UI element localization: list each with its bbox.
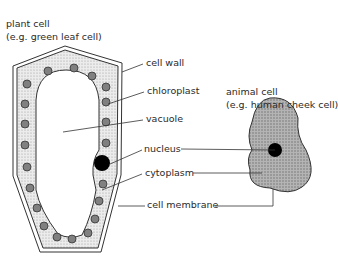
plant-cell-title: plant cell bbox=[6, 18, 50, 30]
plant-cell-example: (e.g. green leaf cell) bbox=[6, 31, 102, 43]
label-cytoplasm: cytoplasm bbox=[145, 167, 194, 179]
label-chloroplast: chloroplast bbox=[147, 85, 199, 97]
label-nucleus: nucleus bbox=[144, 143, 181, 155]
label-cell-membrane: cell membrane bbox=[147, 199, 218, 211]
plant-vacuole bbox=[36, 70, 99, 237]
animal-cell-title: animal cell bbox=[226, 86, 278, 98]
label-cell-wall: cell wall bbox=[146, 57, 184, 69]
animal-cell-membrane bbox=[248, 98, 311, 192]
plant-nucleus bbox=[94, 155, 110, 171]
label-vacuole: vacuole bbox=[146, 113, 183, 125]
animal-cell-example: (e.g. human cheek cell) bbox=[226, 99, 338, 111]
